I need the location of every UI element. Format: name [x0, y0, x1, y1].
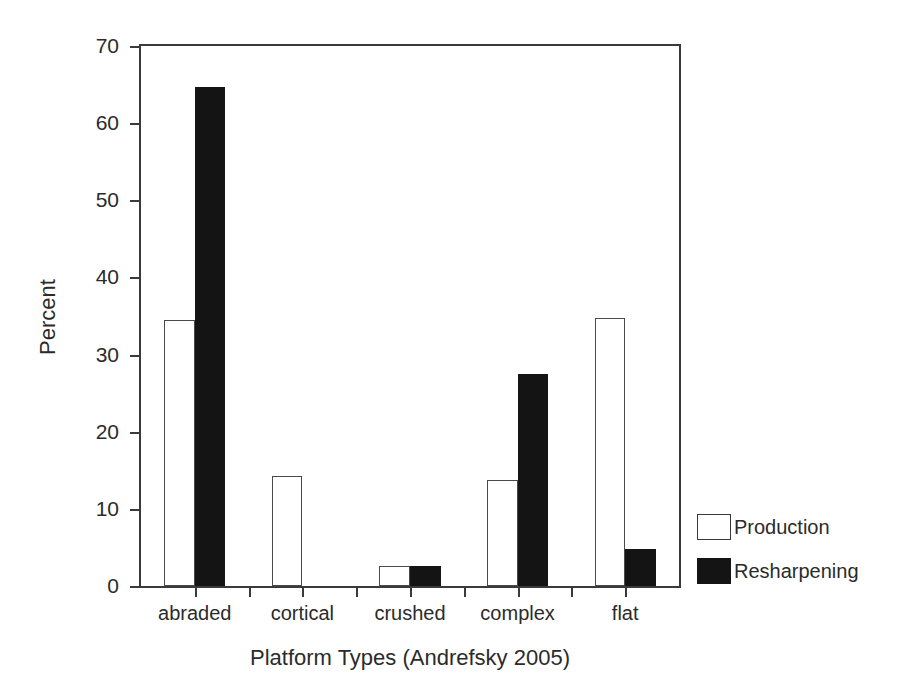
y-tick-mark	[130, 355, 141, 357]
bar-abraded-production	[164, 320, 195, 586]
bar-flat-production	[595, 318, 626, 586]
plot-area: 010203040506070 abradedcorticalcrushedco…	[139, 44, 681, 588]
bar-crushed-resharpening	[410, 566, 441, 586]
x-tick-label-complex: complex	[480, 602, 554, 625]
y-axis-title: Percent	[28, 45, 68, 588]
x-tick-boundary-1	[249, 586, 251, 597]
x-tick-boundary-4	[571, 586, 573, 597]
y-tick-label: 10	[96, 497, 119, 521]
bar-cortical-production	[272, 476, 303, 586]
y-tick-mark	[130, 200, 141, 202]
legend-label: Resharpening	[734, 560, 859, 583]
bar-complex-production	[487, 480, 518, 586]
legend-item-production: Production	[697, 505, 902, 549]
bar-flat-resharpening	[625, 549, 656, 586]
x-tick-label-cortical: cortical	[271, 602, 334, 625]
chart-legend: ProductionResharpening	[697, 505, 902, 593]
bar-crushed-production	[379, 566, 410, 586]
x-tick-label-flat: flat	[612, 602, 639, 625]
open-square-icon	[697, 514, 731, 540]
filled-square-icon	[697, 558, 731, 584]
bar-abraded-resharpening	[195, 87, 226, 586]
bar-chart-figure: Percent 010203040506070 abradedcorticalc…	[0, 0, 909, 687]
y-tick-mark	[130, 277, 141, 279]
x-tick-mark-crushed	[410, 586, 412, 597]
bar-complex-resharpening	[518, 374, 549, 586]
y-axis-title-label: Percent	[35, 279, 61, 355]
y-tick-mark	[130, 46, 141, 48]
y-tick-label: 40	[96, 265, 119, 289]
y-tick-mark	[130, 432, 141, 434]
y-tick-label: 70	[96, 34, 119, 58]
y-tick-label: 30	[96, 343, 119, 367]
x-tick-mark-abraded	[195, 586, 197, 597]
y-tick-label: 60	[96, 111, 119, 135]
legend-label: Production	[734, 516, 830, 539]
x-axis-title: Platform Types (Andrefsky 2005)	[139, 645, 681, 671]
x-tick-label-abraded: abraded	[158, 602, 231, 625]
legend-item-resharpening: Resharpening	[697, 549, 902, 593]
y-tick-label: 20	[96, 420, 119, 444]
x-tick-mark-complex	[518, 586, 520, 597]
y-tick-label: 50	[96, 188, 119, 212]
x-tick-boundary-3	[464, 586, 466, 597]
y-tick-mark	[130, 509, 141, 511]
y-tick-mark	[130, 123, 141, 125]
bars-layer	[141, 46, 679, 586]
x-tick-mark-cortical	[302, 586, 304, 597]
y-tick-mark	[130, 586, 141, 588]
x-tick-label-crushed: crushed	[374, 602, 445, 625]
x-tick-mark-flat	[625, 586, 627, 597]
x-tick-boundary-2	[356, 586, 358, 597]
y-tick-label: 0	[107, 574, 119, 598]
